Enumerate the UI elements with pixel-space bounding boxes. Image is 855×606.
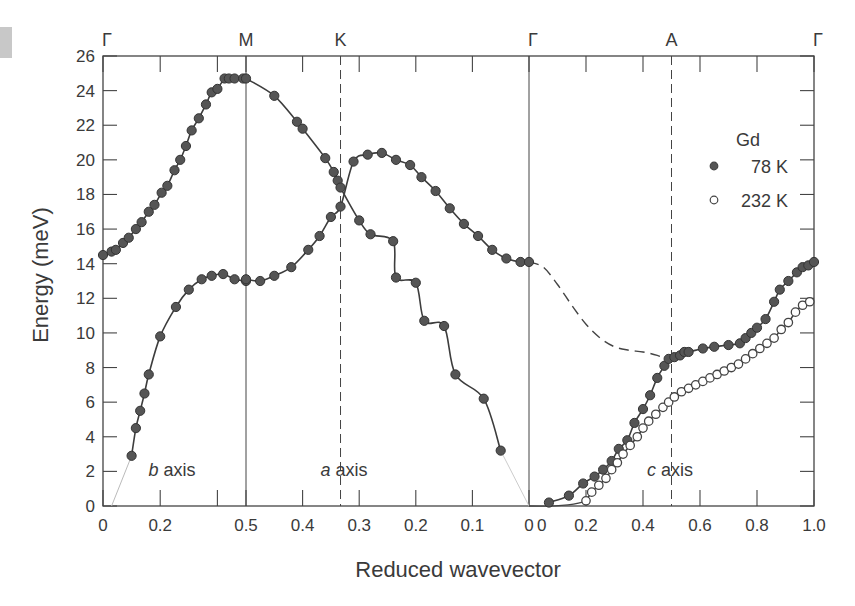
data-point-78K <box>524 257 533 266</box>
data-point-78K <box>579 479 588 488</box>
segment-annotation: c axis <box>647 460 693 480</box>
x-tick-label: 0 <box>537 516 546 535</box>
y-tick-label: 4 <box>86 428 95 447</box>
data-point-78K <box>770 297 779 306</box>
data-point-78K <box>406 160 415 169</box>
data-point-78K <box>391 273 400 282</box>
data-point-78K <box>451 370 460 379</box>
data-point-232K <box>613 459 621 467</box>
y-tick-label: 26 <box>76 47 95 66</box>
data-point-78K <box>197 275 206 284</box>
data-point-78K <box>163 181 172 190</box>
data-point-232K <box>777 325 785 333</box>
data-point-78K <box>479 394 488 403</box>
segment-annotation: b axis <box>148 460 195 480</box>
data-point-78K <box>630 418 639 427</box>
x-tick-label: 0.4 <box>291 516 315 535</box>
x-tick-label: 0.4 <box>631 516 655 535</box>
data-point-78K <box>326 212 335 221</box>
data-point-78K <box>599 465 608 474</box>
dashed-extrapolated-curve <box>529 262 672 361</box>
data-point-78K <box>761 314 770 323</box>
data-point-78K <box>270 271 279 280</box>
fit-curves <box>103 78 814 506</box>
data-point-78K <box>710 342 719 351</box>
data-point-78K <box>366 230 375 239</box>
data-point-78K <box>809 257 818 266</box>
plot-frame <box>103 56 814 506</box>
data-point-78K <box>230 74 239 83</box>
data-point-78K <box>473 231 482 240</box>
data-point-78K <box>564 491 573 500</box>
y-tick-label: 8 <box>86 359 95 378</box>
data-point-78K <box>213 84 222 93</box>
data-point-78K <box>194 114 203 123</box>
data-point-78K <box>187 126 196 135</box>
legend-marker <box>710 162 718 170</box>
data-point-78K <box>459 219 468 228</box>
data-point-78K <box>445 204 454 213</box>
data-point-78K <box>377 148 386 157</box>
data-point-78K <box>646 391 655 400</box>
data-point-232K <box>626 441 634 449</box>
x-tick-label: 0.2 <box>574 516 598 535</box>
fit-line <box>246 153 529 281</box>
data-point-78K <box>336 183 345 192</box>
y-tick-label: 24 <box>76 82 95 101</box>
data-point-78K <box>298 124 307 133</box>
plot-border <box>103 56 814 506</box>
data-point-78K <box>136 406 145 415</box>
data-point-78K <box>144 370 153 379</box>
symmetry-point-label: A <box>665 30 677 50</box>
data-point-78K <box>329 167 338 176</box>
data-point-78K <box>389 237 398 246</box>
data-point-78K <box>336 202 345 211</box>
origin-extrapolation <box>529 501 586 506</box>
data-point-78K <box>170 166 179 175</box>
fit-line <box>132 274 246 456</box>
segment-annotation: a axis <box>320 460 367 480</box>
data-point-78K <box>184 285 193 294</box>
y-tick-label: 20 <box>76 151 95 170</box>
origin-extrapolation <box>501 451 529 506</box>
data-points <box>98 74 818 507</box>
data-point-78K <box>131 424 140 433</box>
data-point-78K <box>304 245 313 254</box>
x-tick-label: 0.1 <box>461 516 485 535</box>
data-point-78K <box>440 321 449 330</box>
data-point-232K <box>602 474 610 482</box>
data-point-232K <box>633 433 641 441</box>
legend: Gd78 K232 K <box>710 130 788 211</box>
data-point-78K <box>241 275 250 284</box>
data-point-78K <box>391 155 400 164</box>
symmetry-point-label: Γ <box>813 30 823 50</box>
symmetry-point-label: K <box>335 30 347 50</box>
data-point-78K <box>201 100 210 109</box>
symmetry-lines <box>246 56 672 506</box>
data-point-78K <box>156 332 165 341</box>
data-point-78K <box>724 340 733 349</box>
x-tick-label: 0.3 <box>347 516 371 535</box>
data-point-78K <box>420 316 429 325</box>
data-point-232K <box>806 298 814 306</box>
data-point-78K <box>488 245 497 254</box>
data-point-78K <box>181 141 190 150</box>
data-point-78K <box>590 472 599 481</box>
data-point-78K <box>137 218 146 227</box>
y-axis-title: Energy (meV) <box>28 207 53 343</box>
y-tick-label: 6 <box>86 393 95 412</box>
x-tick-label: 0 <box>524 516 533 535</box>
data-point-78K <box>256 276 265 285</box>
data-point-78K <box>287 263 296 272</box>
data-point-78K <box>411 278 420 287</box>
x-tick-label: 0.5 <box>234 516 258 535</box>
data-point-78K <box>349 157 358 166</box>
data-point-78K <box>496 446 505 455</box>
data-point-78K <box>544 498 553 507</box>
y-tick-label: 22 <box>76 116 95 135</box>
x-tick-label: 0.8 <box>745 516 769 535</box>
data-point-78K <box>176 155 185 164</box>
chart-labels: 0246810121416182022242600.20.50.40.30.20… <box>28 30 826 582</box>
data-point-232K <box>595 481 603 489</box>
y-tick-label: 14 <box>76 255 95 274</box>
